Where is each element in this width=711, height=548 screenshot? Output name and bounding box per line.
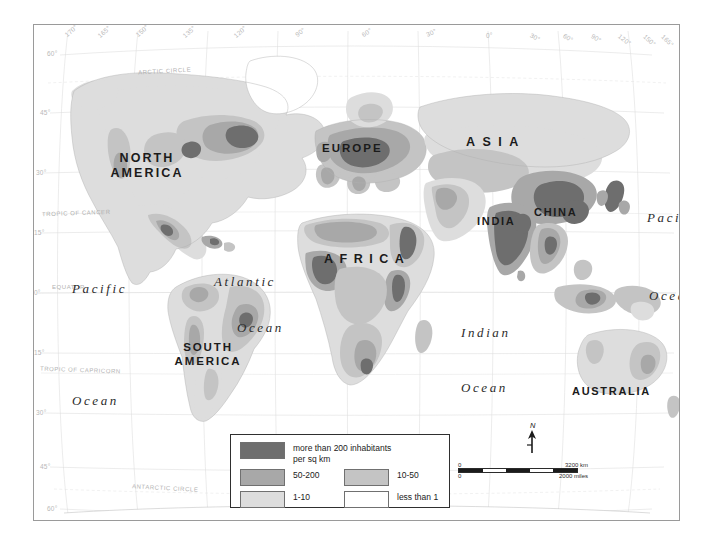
legend-label-1-10: 1-10 <box>293 491 310 503</box>
legend-swatch-50-200 <box>240 469 285 486</box>
scale-miles-max: 2000 miles <box>559 473 588 479</box>
compass-rose: N <box>523 423 541 457</box>
legend-swatch-over-200 <box>240 442 285 459</box>
scale-segment-5 <box>553 469 577 472</box>
legend-entry-over-200: more than 200 inhabitants per sq km <box>240 442 391 464</box>
legend-swatch-10-50 <box>344 469 389 486</box>
legend-swatch-1-10 <box>240 491 285 508</box>
legend-row-1: more than 200 inhabitants per sq km <box>240 442 440 464</box>
scale-km-zero: 0 <box>458 462 461 468</box>
scale-segment-4 <box>530 469 554 472</box>
legend-entry-10-50: 10-50 <box>344 469 419 486</box>
scale-bar-miles-labels: 0 2000 miles <box>458 473 588 479</box>
scale-segment-1 <box>459 469 483 472</box>
legend-label-over-200-line1: more than 200 inhabitants <box>293 443 391 454</box>
scale-miles-zero: 0 <box>458 473 461 479</box>
legend-entry-1-10: 1-10 <box>240 491 344 508</box>
legend-entry-50-200: 50-200 <box>240 469 344 486</box>
legend-row-2: 50-200 10-50 <box>240 469 440 486</box>
scale-segment-2 <box>483 469 507 472</box>
legend-label-less-than-1: less than 1 <box>397 491 438 503</box>
legend-entry-less-than-1: less than 1 <box>344 491 438 508</box>
legend-swatch-less-than-1 <box>344 491 389 508</box>
legend-row-3: 1-10 less than 1 <box>240 491 440 508</box>
compass-north-label: N <box>530 421 535 430</box>
legend-label-10-50: 10-50 <box>397 469 419 481</box>
scale-km-max: 3200 km <box>565 462 588 468</box>
legend-label-over-200: more than 200 inhabitants per sq km <box>293 442 391 464</box>
legend: more than 200 inhabitants per sq km 50-2… <box>230 434 450 508</box>
scale-bar: 0 3200 km 0 2000 miles <box>458 462 588 479</box>
world-population-density-map: .d1{fill:#dddddd;} /* 1-10 */ .d2{fill:#… <box>33 24 680 521</box>
scale-segment-3 <box>506 469 530 472</box>
legend-label-50-200: 50-200 <box>293 469 319 481</box>
legend-label-over-200-line2: per sq km <box>293 454 391 465</box>
